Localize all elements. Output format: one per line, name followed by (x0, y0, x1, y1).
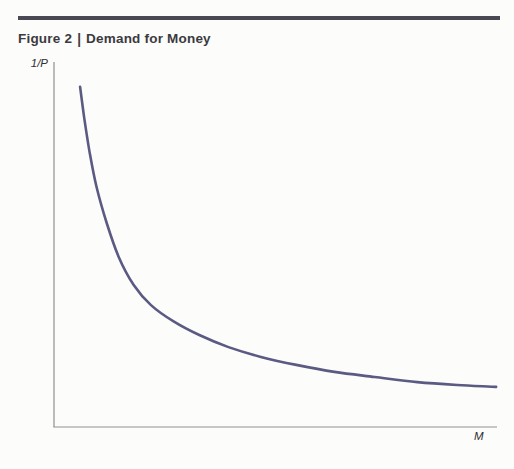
y-axis-label: 1/P (20, 57, 48, 69)
money-demand-curve (80, 87, 496, 387)
textbook-figure-page: Figure 2|Demand for Money 1/P M (0, 0, 514, 469)
x-axis-label: M (474, 430, 494, 442)
chart-canvas (0, 0, 514, 469)
